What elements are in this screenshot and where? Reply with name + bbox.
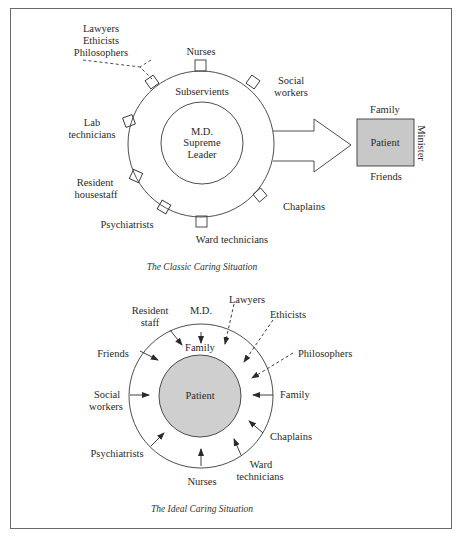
housestaff-label: housestaff xyxy=(75,189,118,200)
ward-technicians-label: technicians xyxy=(236,471,283,482)
ethicists-label: Ethicists xyxy=(270,309,306,320)
resident-housestaff-tab-icon xyxy=(129,169,142,182)
social-workers-tab-icon xyxy=(246,75,260,89)
ideal-diagram: Patient Family Resident staff M.D. Lawye… xyxy=(89,294,352,514)
family-label: Family xyxy=(370,104,401,115)
chaplains-tab-icon xyxy=(253,188,267,202)
philosophers-label: Philosophers xyxy=(74,47,128,58)
resident-label: Resident xyxy=(77,177,114,188)
minister-label: Minister xyxy=(416,125,427,161)
philosophers-label: Philosophers xyxy=(298,348,352,359)
psychiatrists-label: Psychiatrists xyxy=(90,448,143,459)
lawyers-tab-icon xyxy=(145,75,159,89)
staff-label: staff xyxy=(141,317,160,328)
subservients-label: Subservients xyxy=(175,86,229,97)
social-label: Social xyxy=(94,389,120,400)
nurses-tab-icon xyxy=(195,60,206,71)
nurses-label: Nurses xyxy=(187,476,216,487)
lab-label: Lab xyxy=(84,117,100,128)
classic-diagram: M.D. Supreme Leader Subservients Lawyers… xyxy=(68,23,427,272)
technicians-label: technicians xyxy=(68,129,115,140)
resident-label: Resident xyxy=(132,305,169,316)
ideal-family-inner-label: Family xyxy=(185,342,216,353)
patient-label: Patient xyxy=(370,137,399,148)
workers-label: workers xyxy=(89,401,123,412)
classic-big-arrow xyxy=(273,119,351,172)
philosophers-dashed-arrow xyxy=(252,353,293,378)
chaplains-arrow xyxy=(249,421,263,433)
ethicists-label: Ethicists xyxy=(83,35,119,46)
md-label: M.D. xyxy=(191,126,213,137)
ideal-caption: The Ideal Caring Situation xyxy=(151,504,253,514)
ethicists-dashed-arrow xyxy=(244,320,273,362)
ward-technicians-arrow xyxy=(234,439,241,455)
lawyers-label: Lawyers xyxy=(83,23,119,34)
psychiatrists-label: Psychiatrists xyxy=(100,219,153,230)
friends-label: Friends xyxy=(97,348,129,359)
nurses-label: Nurses xyxy=(186,46,215,57)
classic-caption: The Classic Caring Situation xyxy=(147,262,258,272)
supreme-label: Supreme xyxy=(183,137,221,148)
ward-technicians-tab-icon xyxy=(196,216,207,227)
chaplains-label: Chaplains xyxy=(283,201,325,212)
workers-label: workers xyxy=(274,87,308,98)
social-label: Social xyxy=(278,75,304,86)
md-label: M.D. xyxy=(190,305,212,316)
ward-technicians-label: Ward technicians xyxy=(196,234,268,245)
resident-staff-arrow xyxy=(170,330,182,345)
caring-situations-diagram: M.D. Supreme Leader Subservients Lawyers… xyxy=(0,0,464,540)
lawyers-dashed-connector xyxy=(83,60,152,79)
psychiatrists-arrow xyxy=(151,433,164,446)
family-label: Family xyxy=(280,389,311,400)
friends-arrow xyxy=(140,351,158,360)
friends-label: Friends xyxy=(370,171,402,182)
chaplains-label: Chaplains xyxy=(270,431,312,442)
lawyers-dashed-arrow xyxy=(225,304,234,344)
leader-label: Leader xyxy=(187,149,217,160)
ward-label: Ward xyxy=(250,459,273,470)
lawyers-label: Lawyers xyxy=(229,294,265,305)
ideal-patient-label: Patient xyxy=(185,390,214,401)
